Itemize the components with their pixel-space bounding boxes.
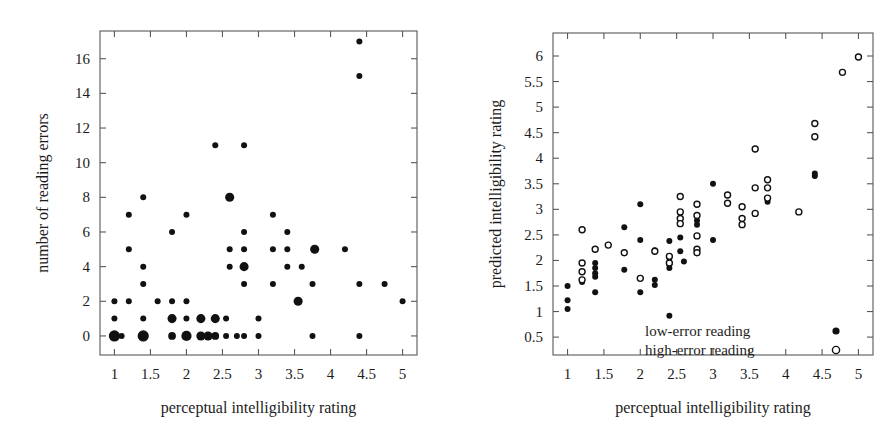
data-point <box>294 297 303 306</box>
data-point <box>204 331 213 340</box>
y-tick-label: 3.5 <box>524 176 543 192</box>
data-point <box>382 281 388 287</box>
y-tick-label: 5.5 <box>524 74 543 90</box>
data-point <box>241 246 247 252</box>
data-point <box>356 333 362 339</box>
y-tick-label: 14 <box>75 85 91 101</box>
data-point <box>677 234 683 240</box>
data-point <box>140 264 146 270</box>
data-point <box>666 238 672 244</box>
data-point <box>677 221 683 227</box>
data-point <box>168 314 177 323</box>
left-plot-svg: 11.522.533.544.550246810121416perceptual… <box>0 0 447 441</box>
data-point <box>694 222 700 228</box>
data-point <box>119 333 125 339</box>
x-axis-title: perceptual intelligibility rating <box>615 399 811 417</box>
data-point <box>356 281 362 287</box>
data-point <box>256 316 262 322</box>
x-tick-label: 2 <box>637 366 645 382</box>
data-point <box>637 201 643 207</box>
data-point <box>765 177 771 183</box>
data-point <box>725 192 731 198</box>
y-tick-label: 4 <box>83 259 91 275</box>
x-tick-label: 3.5 <box>740 366 759 382</box>
x-tick-label: 4.5 <box>357 366 376 382</box>
data-point <box>765 185 771 191</box>
data-point <box>839 69 845 75</box>
data-point <box>677 248 683 254</box>
data-point <box>241 281 247 287</box>
y-tick-label: 3 <box>536 201 544 217</box>
series-low-error-reading <box>565 171 818 319</box>
data-point <box>652 282 658 288</box>
legend-marker-open-circle <box>832 346 839 353</box>
data-point <box>169 298 175 304</box>
data-point <box>812 134 818 140</box>
data-point <box>592 274 598 280</box>
data-point <box>677 194 683 200</box>
data-point <box>621 250 627 256</box>
x-tick-label: 5 <box>855 366 863 382</box>
data-point <box>637 237 643 243</box>
data-point <box>169 229 175 235</box>
data-point <box>812 120 818 126</box>
data-point <box>126 212 132 218</box>
x-tick-label: 4 <box>327 366 335 382</box>
x-tick-label: 2.5 <box>213 366 232 382</box>
y-tick-label: 4.5 <box>524 125 543 141</box>
data-point <box>621 224 627 230</box>
data-point <box>284 246 290 252</box>
y-tick-label: 2 <box>536 252 544 268</box>
y-tick-label: 0 <box>83 328 91 344</box>
data-point <box>284 264 290 270</box>
x-axis-title: perceptual intelligibility rating <box>161 399 357 417</box>
data-point <box>605 242 611 248</box>
data-point <box>637 275 643 281</box>
plot-frame <box>100 31 417 355</box>
y-tick-label: 6 <box>83 224 91 240</box>
data-point <box>592 289 598 295</box>
data-point <box>240 262 249 271</box>
left-scatter-panel: 11.522.533.544.550246810121416perceptual… <box>0 0 447 441</box>
x-tick-label: 3 <box>709 366 717 382</box>
data-point <box>666 260 672 266</box>
data-point <box>342 246 348 252</box>
data-point <box>565 283 571 289</box>
x-tick-label: 5 <box>399 366 407 382</box>
legend-marker-filled-circle <box>832 327 839 334</box>
data-point <box>579 227 585 233</box>
data-point <box>694 201 700 207</box>
x-tick-label: 3 <box>255 366 263 382</box>
data-point <box>666 313 672 319</box>
data-point <box>855 54 861 60</box>
data-point <box>752 210 758 216</box>
plot-frame <box>553 33 873 355</box>
data-point <box>796 209 802 215</box>
x-tick-label: 1.5 <box>595 366 614 382</box>
data-point <box>579 277 585 283</box>
data-point <box>725 200 731 206</box>
data-point <box>310 245 319 254</box>
legend-label-1: high-error reading <box>645 342 755 358</box>
data-point <box>126 246 132 252</box>
data-point <box>223 316 229 322</box>
data-point <box>126 298 132 304</box>
data-point <box>694 250 700 256</box>
data-point <box>241 142 247 148</box>
data-point <box>168 332 176 340</box>
data-point <box>284 229 290 235</box>
data-point <box>270 281 276 287</box>
x-tick-label: 1 <box>564 366 572 382</box>
data-point <box>652 277 658 283</box>
data-point <box>592 265 598 271</box>
data-point <box>223 333 229 339</box>
y-tick-label: 1 <box>536 304 544 320</box>
data-point <box>310 281 316 287</box>
data-point <box>183 212 189 218</box>
data-point <box>234 333 240 339</box>
data-point <box>299 264 305 270</box>
data-point <box>752 185 758 191</box>
data-point <box>270 246 276 252</box>
y-tick-label: 2 <box>83 293 91 309</box>
series-reading-errors <box>109 38 406 341</box>
